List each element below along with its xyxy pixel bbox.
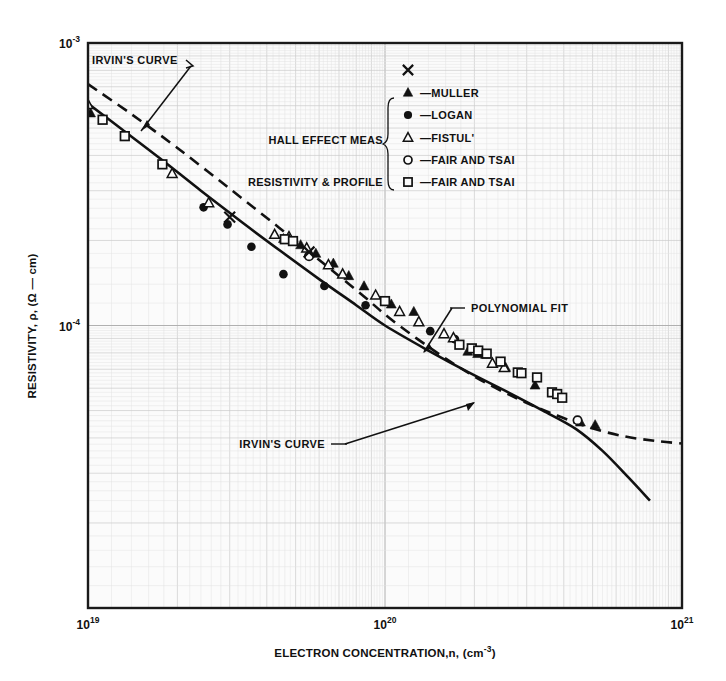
legend-group-hall-label: HALL EFFECT MEAS <box>268 134 383 146</box>
data-point <box>289 237 298 246</box>
data-point <box>558 393 567 402</box>
data-point <box>533 373 542 382</box>
data-point <box>381 297 390 306</box>
legend-marker-filled-circle <box>404 111 412 119</box>
y-axis-label: RESISTIVITY, ρ, (Ω — cm) <box>26 253 38 398</box>
legend-label: —FAIR AND TSAI <box>420 154 515 166</box>
data-point <box>361 301 370 310</box>
data-point <box>496 357 505 366</box>
x-axis-label-prefix: ELECTRON CONCENTRATION,n, (cm <box>274 647 483 659</box>
legend-group-resistivity-label: RESISTIVITY & PROFILE <box>248 176 383 188</box>
data-point <box>455 340 464 349</box>
data-point <box>279 270 288 279</box>
data-point <box>426 327 435 336</box>
figure-root: 10-210-310-4 101910201021 RESISTIVITY, ρ… <box>0 0 726 681</box>
legend-label: —MULLER <box>420 87 479 99</box>
data-point <box>573 416 581 424</box>
data-point <box>120 132 129 141</box>
data-point <box>517 369 526 378</box>
annotation-irvin-bottom-text: IRVIN'S CURVE <box>239 438 325 450</box>
data-point <box>247 242 256 251</box>
x-axis-label: ELECTRON CONCENTRATION,n, (cm-3) <box>274 644 495 659</box>
resistivity-vs-electron-concentration-chart: 10-210-310-4 101910201021 RESISTIVITY, ρ… <box>0 0 726 681</box>
data-point <box>320 282 329 291</box>
legend-marker-open-square <box>404 178 412 186</box>
data-point <box>158 160 167 169</box>
data-point <box>474 346 483 355</box>
legend-label: —FISTUL' <box>420 132 475 144</box>
legend-label: —LOGAN <box>420 109 473 121</box>
data-point <box>98 115 107 124</box>
data-point <box>482 349 491 358</box>
annotation-polynomial-fit-text: POLYNOMIAL FIT <box>471 302 568 314</box>
x-axis-label-exponent: -3 <box>484 644 492 654</box>
legend-marker-open-circle <box>404 156 412 164</box>
x-axis-label-suffix: ) <box>492 647 496 659</box>
legend-label: —FAIR AND TSAI <box>420 176 515 188</box>
annotation-irvin-top-text: IRVIN'S CURVE <box>92 54 178 66</box>
